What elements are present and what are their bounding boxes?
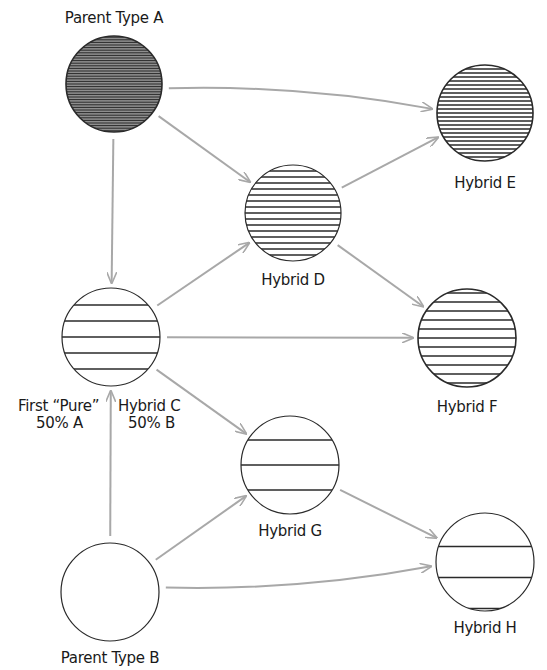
node-g — [241, 416, 339, 514]
node-d — [245, 165, 341, 261]
arrow-g-to-h — [340, 490, 437, 538]
node-f — [418, 289, 516, 387]
node-e — [437, 65, 533, 161]
label-hybrid-d: Hybrid D — [261, 271, 324, 289]
node-h — [436, 513, 534, 611]
arrow-d-to-f — [338, 245, 423, 306]
arrow-b-to-c — [110, 391, 111, 536]
label-hybrid-c-line1-left: First “Pure” — [18, 397, 99, 415]
arrow-a-to-d — [159, 116, 250, 182]
arrow-c-to-f — [167, 337, 413, 338]
arrow-a-to-c — [112, 139, 114, 283]
node-b — [61, 543, 159, 641]
label-hybrid-e: Hybrid E — [454, 174, 515, 192]
label-hybrid-c-line2-right: 50% B — [128, 414, 175, 432]
label-hybrid-c-line1-right: Hybrid C — [118, 397, 180, 415]
label-hybrid-f: Hybrid F — [437, 398, 498, 416]
node-a — [66, 36, 162, 132]
label-hybrid-g: Hybrid G — [258, 522, 322, 540]
hybrid-diagram — [0, 0, 547, 670]
arrow-b-to-h — [166, 566, 431, 588]
arrow-a-to-e — [169, 88, 432, 109]
arrow-b-to-g — [156, 496, 246, 560]
hatch-lines — [245, 171, 341, 255]
label-parent-type-b: Parent Type B — [61, 649, 159, 667]
arrow-c-to-d — [157, 243, 249, 306]
label-hybrid-h: Hybrid H — [453, 619, 516, 637]
label-hybrid-c-line2-left: 50% A — [36, 414, 83, 432]
label-parent-type-a: Parent Type A — [65, 9, 163, 27]
node-c — [62, 288, 160, 386]
arrow-d-to-e — [342, 137, 438, 187]
